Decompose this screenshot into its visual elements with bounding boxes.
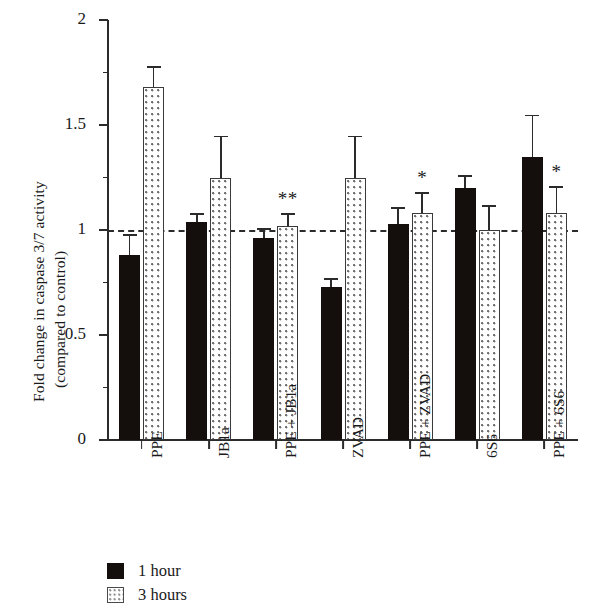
y-tick-major: 1 bbox=[99, 229, 108, 231]
error-bar-cap bbox=[190, 213, 204, 215]
error-bar-stem bbox=[464, 175, 466, 188]
error-bar-cap bbox=[348, 136, 362, 138]
bar-1-hour bbox=[253, 238, 274, 440]
y-axis-title-line-1: Fold change in caspase 3/7 activity bbox=[30, 181, 48, 402]
y-tick-minor bbox=[103, 387, 108, 388]
error-bar-stem bbox=[129, 234, 131, 255]
y-axis-title: Fold change in caspase 3/7 activity (com… bbox=[0, 0, 62, 460]
error-bar-cap bbox=[214, 136, 228, 138]
x-axis-label: ZVAD bbox=[349, 417, 367, 458]
bar-1-hour bbox=[119, 255, 140, 440]
x-tick bbox=[208, 440, 210, 449]
y-tick-label: 1.5 bbox=[65, 114, 86, 134]
legend-item-3-hours: 3 hours bbox=[107, 583, 327, 607]
bar-1-hour bbox=[455, 188, 476, 440]
bar-1-hour bbox=[388, 224, 409, 440]
error-bar-cap bbox=[549, 186, 563, 188]
y-tick-major: 1.5 bbox=[99, 124, 108, 126]
error-bar-cap bbox=[415, 192, 429, 194]
y-tick-major: 0.5 bbox=[99, 334, 108, 336]
x-axis-label: PPE + 6S6 bbox=[550, 391, 568, 458]
error-bar-stem bbox=[354, 136, 356, 178]
legend-label-1-hour: 1 hour bbox=[138, 561, 181, 581]
error-bar-stem bbox=[556, 186, 558, 213]
y-tick-label: 0 bbox=[78, 429, 87, 449]
x-tick bbox=[476, 440, 478, 449]
bar-3-hours bbox=[479, 230, 500, 440]
x-axis-label: PPE bbox=[148, 431, 166, 458]
y-tick-label: 2 bbox=[78, 9, 87, 29]
bar-1-hour bbox=[522, 157, 543, 441]
significance-marker: ** bbox=[278, 189, 298, 208]
error-bar-stem bbox=[287, 213, 289, 226]
error-bar-cap bbox=[257, 228, 271, 230]
legend-swatch-solid-icon bbox=[107, 563, 124, 579]
legend-item-1-hour: 1 hour bbox=[107, 559, 327, 583]
caspase-activity-bar-chart: Fold change in caspase 3/7 activity (com… bbox=[0, 0, 589, 611]
error-bar-cap bbox=[281, 213, 295, 215]
y-tick-label: 1 bbox=[78, 219, 87, 239]
legend-swatch-dotted-icon bbox=[107, 587, 124, 603]
error-bar-cap bbox=[123, 234, 137, 236]
x-axis-label: 6S6 bbox=[483, 434, 501, 458]
y-tick-major: 2 bbox=[99, 19, 108, 21]
bar-3-hours bbox=[143, 87, 164, 440]
error-bar-cap bbox=[147, 66, 161, 68]
error-bar-stem bbox=[220, 136, 222, 178]
x-tick bbox=[275, 440, 277, 449]
significance-marker: * bbox=[417, 168, 427, 187]
control-reference-line bbox=[108, 230, 578, 232]
error-bar-cap bbox=[458, 175, 472, 177]
significance-marker: * bbox=[551, 162, 561, 181]
error-bar-cap bbox=[525, 115, 539, 117]
error-bar-cap bbox=[324, 278, 338, 280]
error-bar-stem bbox=[488, 205, 490, 230]
error-bar-stem bbox=[532, 115, 534, 157]
bar-1-hour bbox=[186, 222, 207, 440]
bar-1-hour bbox=[321, 287, 342, 440]
y-axis-title-line-2: (compared to control) bbox=[51, 251, 69, 388]
x-tick bbox=[409, 440, 411, 449]
error-bar-stem bbox=[421, 192, 423, 213]
y-tick-minor bbox=[103, 282, 108, 283]
error-bar-stem bbox=[397, 207, 399, 224]
y-tick-major: 0 bbox=[99, 439, 108, 441]
x-tick bbox=[141, 440, 143, 449]
bar-3-hours bbox=[345, 178, 366, 441]
error-bar-cap bbox=[391, 207, 405, 209]
y-tick-minor bbox=[103, 177, 108, 178]
error-bar-cap bbox=[482, 205, 496, 207]
bar-3-hours bbox=[210, 178, 231, 441]
x-tick bbox=[342, 440, 344, 449]
error-bar-stem bbox=[153, 66, 155, 87]
y-tick-minor bbox=[103, 72, 108, 73]
y-tick-label: 0.5 bbox=[65, 324, 86, 344]
plot-area: 00.511.52 **** bbox=[108, 20, 578, 440]
x-tick bbox=[544, 440, 546, 449]
x-axis-label: PPE + JB1a bbox=[282, 384, 300, 458]
legend: 1 hour 3 hours bbox=[107, 559, 327, 607]
x-axis-label: PPE + ZVAD bbox=[416, 374, 434, 458]
x-axis-label: JB1a bbox=[215, 427, 233, 458]
legend-label-3-hours: 3 hours bbox=[138, 585, 187, 605]
